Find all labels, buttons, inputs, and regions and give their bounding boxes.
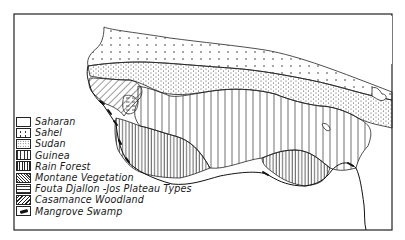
vegetation-map: Saharan Sahel Sudan Guinea Rain Forest M… [0,0,405,240]
legend-item-casamance: Casamance Woodland [16,194,192,205]
legend-label: Montane Vegetation [35,172,134,183]
legend: Saharan Sahel Sudan Guinea Rain Forest M… [16,116,192,217]
legend-item-rainforest: Rain Forest [16,161,192,172]
saharan-swatch-icon [16,117,31,127]
legend-label: Sudan [35,138,66,149]
legend-item-saharan: Saharan [16,116,192,127]
legend-item-sahel: Sahel [16,127,192,138]
legend-item-fouta: Fouta Djallon -Jos Plateau Types [16,183,192,194]
legend-label: Saharan [35,116,76,127]
legend-item-guinea: Guinea [16,150,192,161]
legend-label: Guinea [35,150,70,161]
casamance-swatch-icon [16,195,31,205]
sahel-swatch-icon [16,128,31,138]
legend-label: Mangrove Swamp [35,206,122,217]
mangrove-swatch-icon [16,206,31,216]
legend-item-sudan: Sudan [16,138,192,149]
sudan-swatch-icon [16,139,31,149]
legend-label: Rain Forest [35,161,90,172]
legend-label: Casamance Woodland [35,194,144,205]
fouta-swatch-icon [16,184,31,194]
rainforest-swatch-icon [16,161,31,171]
legend-item-mangrove: Mangrove Swamp [16,206,192,217]
legend-item-montane: Montane Vegetation [16,172,192,183]
legend-label: Sahel [35,127,62,138]
montane-swatch-icon [16,173,31,183]
guinea-swatch-icon [16,150,31,160]
legend-label: Fouta Djallon -Jos Plateau Types [35,183,192,194]
